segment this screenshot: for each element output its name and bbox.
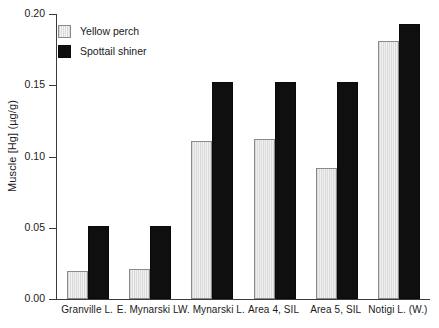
bar-spottail-shiner <box>399 24 420 299</box>
y-axis-title: Muscle [Hg] (µg/g) <box>6 16 18 276</box>
y-axis-tick-label: 0.00 <box>25 292 45 304</box>
bar-spottail-shiner <box>212 82 233 299</box>
x-axis-tick-label: Notigi L. (W.) <box>359 304 437 315</box>
bar-yellow-perch <box>378 41 399 299</box>
y-axis-tick-label: 0.15 <box>25 78 45 90</box>
bar-group <box>254 14 296 299</box>
legend-item-yellow-perch: Yellow perch <box>58 22 188 40</box>
legend-label-yellow-perch: Yellow perch <box>80 25 139 37</box>
y-axis-tick: 0.20 <box>49 14 56 15</box>
bar-yellow-perch <box>67 271 88 300</box>
y-axis-tick: 0.05 <box>49 228 56 229</box>
bar-yellow-perch <box>254 139 275 299</box>
bar-spottail-shiner <box>150 226 171 299</box>
legend-swatch-spottail-shiner-icon <box>58 45 71 58</box>
bar-spottail-shiner <box>88 226 109 299</box>
bar-chart-figure: Muscle [Hg] (µg/g) 0.000.050.100.150.20 … <box>0 0 439 328</box>
y-axis-tick-label: 0.20 <box>25 7 45 19</box>
y-axis-tick: 0.10 <box>49 157 56 158</box>
bar-group <box>316 14 358 299</box>
y-axis-tick-label: 0.05 <box>25 221 45 233</box>
x-axis-line <box>56 299 430 300</box>
bar-group <box>378 14 420 299</box>
y-axis-tick-label: 0.10 <box>25 150 45 162</box>
bar-yellow-perch <box>316 168 337 299</box>
legend-label-spottail-shiner: Spottail shiner <box>80 45 147 57</box>
y-axis-tick: 0.15 <box>49 85 56 86</box>
bar-group <box>191 14 233 299</box>
bar-yellow-perch <box>129 269 150 299</box>
legend-item-spottail-shiner: Spottail shiner <box>58 42 188 60</box>
bar-spottail-shiner <box>337 82 358 299</box>
legend-swatch-yellow-perch-icon <box>58 25 71 38</box>
y-axis-tick: 0.00 <box>49 299 56 300</box>
y-axis-title-wrapper: Muscle [Hg] (µg/g) <box>0 0 20 300</box>
bar-yellow-perch <box>191 141 212 299</box>
bar-spottail-shiner <box>275 82 296 299</box>
chart-legend: Yellow perch Spottail shiner <box>58 22 188 62</box>
